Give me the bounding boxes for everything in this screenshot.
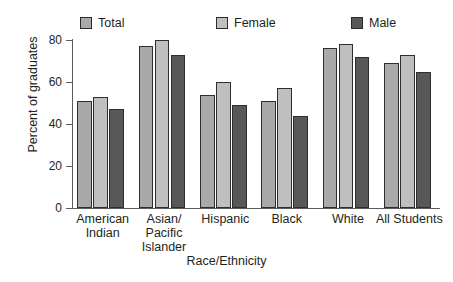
legend-item-male: Male — [351, 14, 396, 32]
chart-legend: Total Female Male — [80, 14, 430, 32]
y-tick-label-wrap-0: 0 — [0, 202, 62, 214]
x-label-line: All Students — [367, 212, 452, 226]
bar-group-1 — [139, 40, 186, 208]
bar-female-1 — [155, 40, 170, 208]
legend-label-male: Male — [369, 17, 396, 30]
bar-male-3 — [293, 116, 308, 208]
bar-chart-figure: Total Female Male 020406080 Percent of g… — [0, 0, 453, 282]
bar-group-2 — [200, 40, 247, 208]
x-label-line: Pacific — [121, 226, 206, 240]
x-axis-title: Race/Ethnicity — [0, 254, 453, 268]
bar-group-4 — [323, 40, 370, 208]
bar-male-5 — [416, 72, 431, 209]
bar-male-4 — [355, 57, 370, 208]
bar-group-5 — [384, 40, 431, 208]
bar-female-0 — [93, 97, 108, 208]
x-label-5: All Students — [367, 212, 452, 226]
legend-item-female: Female — [216, 14, 276, 32]
bar-male-2 — [232, 105, 247, 208]
bar-group-3 — [261, 40, 308, 208]
x-label-line: Islander — [121, 240, 206, 254]
bar-total-4 — [323, 48, 338, 208]
y-axis-title: Percent of graduates — [27, 15, 40, 175]
bar-male-0 — [109, 109, 124, 208]
bar-male-1 — [171, 55, 186, 208]
legend-label-total: Total — [98, 17, 124, 30]
y-tick-label-0: 0 — [0, 202, 62, 214]
bar-female-4 — [339, 44, 354, 208]
bar-total-3 — [261, 101, 276, 208]
bar-total-1 — [139, 46, 154, 208]
bar-female-5 — [400, 55, 415, 208]
legend-label-female: Female — [234, 17, 276, 30]
bar-female-2 — [216, 82, 231, 208]
legend-swatch-female — [216, 17, 228, 29]
bar-female-3 — [277, 88, 292, 208]
legend-item-total: Total — [80, 14, 124, 32]
bar-group-0 — [77, 40, 124, 208]
legend-swatch-male — [351, 17, 363, 29]
plot-area — [72, 40, 440, 208]
x-axis-line — [72, 208, 440, 209]
bar-total-5 — [384, 63, 399, 208]
legend-swatch-total — [80, 17, 92, 29]
y-tick-0 — [66, 208, 73, 209]
bar-total-2 — [200, 95, 215, 208]
bar-total-0 — [77, 101, 92, 208]
